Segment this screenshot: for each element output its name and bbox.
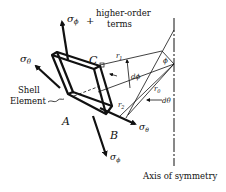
shell-label: Shell [18, 85, 40, 95]
construction-lines [60, 30, 174, 118]
r2-label: r2 [118, 101, 125, 110]
dphi-label: dϕ [131, 73, 140, 81]
shell-element-leader [48, 99, 64, 102]
shell-element-diagram: σϕ + higher-order terms σθ Shell Element… [0, 0, 226, 192]
sigma-phi-bottom-label: σϕ [110, 152, 120, 164]
stress-arrows [36, 22, 135, 155]
sigma-theta-right-label: σθ [139, 122, 149, 133]
corner-b-label: B [109, 129, 118, 142]
axis-of-symmetry-label: Axis of symmetry [142, 171, 217, 181]
sigma-theta-left-label: σθ [20, 53, 32, 66]
element-label: Element [10, 96, 47, 106]
corner-a-label: A [61, 115, 70, 128]
sigma-phi-top-label: σϕ [67, 13, 79, 26]
dphi-arrow [127, 60, 130, 88]
r1-label: r1 [116, 52, 123, 61]
terms-label: terms [107, 19, 132, 29]
plus-sign: + [86, 15, 94, 26]
r0-label: r0 [154, 85, 161, 94]
corner-c-label: C [89, 54, 98, 67]
phi-label: ϕ [163, 57, 168, 65]
sigma-phi-bottom-arrow [93, 116, 106, 155]
shell-element [52, 52, 112, 114]
dtheta-label: dθ [162, 97, 171, 105]
higher-order-label: higher-order [96, 8, 152, 18]
